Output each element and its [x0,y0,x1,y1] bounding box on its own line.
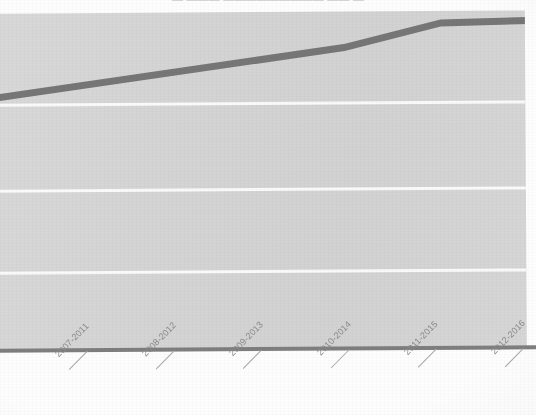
tickmark-5 [505,348,524,367]
chart-scan-canvas: ▬ ▬▬▬ ▬▬▬▬▬▬▬▬▬ ▬▬ ▬ 2007-2011 2008-2012… [0,0,536,415]
tickmark-3 [331,349,350,368]
tickmark-1 [156,350,175,369]
trend-line [0,20,527,97]
cropped-chart-title: ▬ ▬▬▬ ▬▬▬▬▬▬▬▬▬ ▬▬ ▬ [0,0,536,11]
tickmark-0 [69,351,88,370]
tickmark-2 [243,350,262,369]
data-series-line [0,10,527,351]
chart-title-text: ▬ ▬▬▬ ▬▬▬▬▬▬▬▬▬ ▬▬ ▬ [172,0,364,3]
tickmark-4 [418,349,437,368]
chart-skew-wrapper: 2007-2011 2008-2012 2009-2013 2010-2014 … [0,0,536,415]
